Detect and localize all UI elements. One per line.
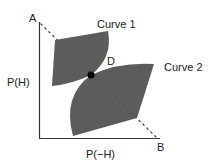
y-axis-label: P(H) [7, 76, 30, 88]
diagram-canvas: A B D Curve 1 Curve 2 P(H) P(−H) [0, 0, 213, 166]
point-b-label: B [157, 141, 164, 153]
point-d-marker [87, 71, 94, 78]
x-axis-label: P(−H) [86, 148, 115, 160]
point-d-label: D [107, 55, 115, 67]
point-a-label: A [29, 12, 37, 24]
curve-2-label: Curve 2 [164, 61, 203, 73]
curve-1-label: Curve 1 [97, 18, 136, 30]
